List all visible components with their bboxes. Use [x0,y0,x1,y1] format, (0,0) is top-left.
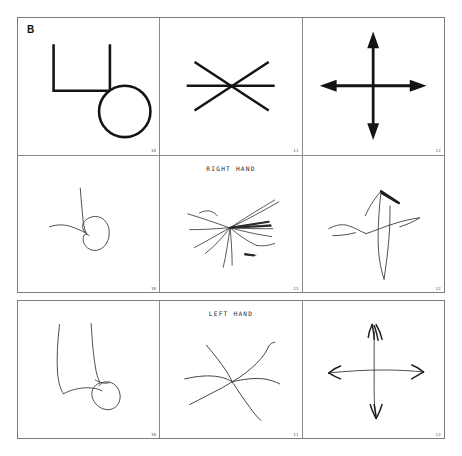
cell-right-hand-10[interactable]: 10 [18,156,159,293]
bracket-circle-drawing-left-icon [18,301,159,438]
cell-number: 12 [436,287,441,291]
block-left-hand: 10 LEFT HAND 11 [17,300,445,439]
cross-drawing-right-icon [303,156,444,293]
cell-number: 11 [293,433,298,437]
cell-model-11[interactable]: 11 [159,18,301,155]
cell-right-hand-11[interactable]: RIGHT HAND [159,156,301,293]
cell-number: 12 [436,149,441,153]
cell-right-hand-12[interactable]: 12 [302,156,444,293]
cell-left-hand-10[interactable]: 10 [18,301,159,438]
cell-number: 11 [293,149,298,153]
cell-model-10[interactable]: B 10 [18,18,159,155]
cell-number: 11 [293,287,298,291]
cell-number: 12 [436,433,441,437]
cell-left-hand-12[interactable]: 12 [302,301,444,438]
left-hand-row: 10 LEFT HAND 11 [18,301,444,438]
model-row: B 10 1 [18,18,444,155]
cell-model-12[interactable]: 12 [302,18,444,155]
cell-left-hand-11[interactable]: LEFT HAND 11 [159,301,301,438]
bracket-circle-model-icon [18,18,159,155]
four-headed-arrow-cross-model-icon [303,18,444,155]
cross-drawing-left-icon [303,301,444,438]
right-hand-row: 10 RIGHT HAND [18,155,444,293]
cell-number: 10 [151,433,156,437]
bracket-circle-drawing-right-icon [18,156,159,293]
cell-number: 10 [151,149,156,153]
figure-panel-b: B 10 1 [0,0,462,456]
six-point-asterisk-model-icon [160,18,301,155]
asterisk-drawing-left-icon [160,301,301,438]
asterisk-drawing-right-icon [160,156,301,293]
block-model-and-right-hand: B 10 1 [17,17,445,293]
cell-number: 10 [151,287,156,291]
